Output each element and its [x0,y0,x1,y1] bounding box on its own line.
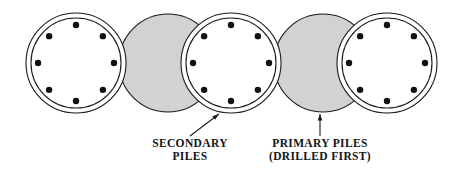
primary-piles-leader [318,114,323,136]
rebar-dot [255,87,261,93]
rebar-dot [100,33,106,39]
rebar-dot [346,60,352,66]
rebar-dot [201,87,207,93]
rebar-dot [357,33,363,39]
rebar-dot [111,60,117,66]
rebar-dot [266,60,272,66]
rebar-dot [228,22,234,28]
rebar-dot [255,33,261,39]
primary-piles-label-line2: (DRILLED FIRST) [252,150,388,163]
pile-secondary-5 [337,13,437,113]
rebar-dot [384,98,390,104]
rebar-dot [228,98,234,104]
pile-secondary-3 [181,13,281,113]
rebar-dot [73,98,79,104]
secondary-piles-label-line2: PILES [132,150,248,163]
rebar-dot [422,60,428,66]
primary-piles-label-line1: PRIMARY PILES [252,137,388,150]
rebar-dot [201,33,207,39]
rebar-dot [384,22,390,28]
secant-pile-wall-figure: SECONDARY PILES PRIMARY PILES (DRILLED F… [0,0,456,180]
primary-piles-leader-head [318,114,323,121]
rebar-dot [73,22,79,28]
secondary-piles-label-line1: SECONDARY [132,137,248,150]
rebar-dot [100,87,106,93]
leader-lines-group [190,114,322,136]
rebar-dot [46,33,52,39]
rebar-dot [411,33,417,39]
rebar-dot [411,87,417,93]
rebar-dot [190,60,196,66]
pile-secondary-1 [26,13,126,113]
rebar-dot [35,60,41,66]
secondary-piles-label: SECONDARY PILES [132,137,248,163]
rebar-dot [357,87,363,93]
rebar-dot [46,87,52,93]
primary-piles-label: PRIMARY PILES (DRILLED FIRST) [252,137,388,163]
pile-circles-group [26,13,437,113]
secondary-piles-leader [190,114,219,136]
